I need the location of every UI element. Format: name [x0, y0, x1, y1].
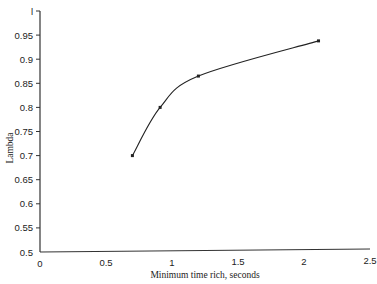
y-tick-label: l	[31, 6, 33, 17]
y-axis-title: Lambda	[5, 132, 15, 164]
y-tick-label: 0.75	[15, 126, 34, 137]
x-tick-label: 1	[169, 257, 174, 268]
y-tick-label: 0.5	[20, 247, 33, 258]
plot-area	[131, 39, 320, 157]
y-tick-label: 0.6	[20, 198, 33, 209]
y-tick-label: 0.95	[15, 30, 34, 41]
x-tick-label: 0.5	[99, 257, 112, 268]
line-chart: l0.950.90.850.80.750.70.650.60.550.5 00.…	[0, 0, 377, 284]
x-axis: 00.511.522.5	[37, 249, 376, 269]
x-tick-label: 0	[37, 258, 42, 269]
y-tick-label: 0.55	[15, 222, 34, 233]
x-tick-label: 1.5	[231, 256, 244, 267]
y-axis: l0.950.90.850.80.750.70.650.60.550.5	[15, 6, 41, 258]
y-tick-label: 0.85	[15, 78, 34, 89]
x-axis-title: Minimum time rich, seconds	[150, 270, 260, 280]
y-tick-label: 0.8	[20, 102, 33, 113]
data-point-marker	[197, 75, 200, 78]
x-tick-label: 2	[301, 256, 306, 267]
series-line	[132, 41, 318, 156]
y-tick-label: 0.65	[15, 174, 34, 185]
y-tick-label: 0.7	[20, 150, 33, 161]
x-axis-line	[40, 249, 370, 252]
x-tick-label: 2.5	[363, 255, 376, 266]
data-point-marker	[317, 39, 320, 42]
data-point-marker	[131, 154, 134, 157]
data-point-marker	[159, 106, 162, 109]
y-tick-label: 0.9	[20, 54, 33, 65]
